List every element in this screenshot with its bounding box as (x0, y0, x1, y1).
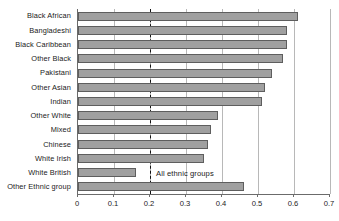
bar (78, 168, 136, 177)
bar (78, 54, 283, 63)
x-tick-label: 0.4 (216, 199, 227, 208)
x-tick-label: 0 (75, 199, 79, 208)
category-label: Other White (0, 109, 74, 123)
x-tick (329, 194, 330, 197)
bar (78, 154, 204, 163)
category-label: Mixed (0, 123, 74, 137)
bar-row (78, 37, 330, 51)
x-tick (113, 194, 114, 197)
bar (78, 83, 265, 92)
bar (78, 12, 298, 21)
category-label: Other Asian (0, 80, 74, 94)
reference-line-label: All ethnic groups (156, 169, 214, 178)
category-label: Pakistani (0, 66, 74, 80)
bar-row (78, 52, 330, 66)
plot-area: All ethnic groups (77, 9, 330, 195)
bar-row (78, 23, 330, 37)
bar-row (78, 9, 330, 23)
bar (78, 140, 208, 149)
bar-row (78, 109, 330, 123)
bar (78, 40, 287, 49)
x-tick (257, 194, 258, 197)
x-tick-label: 0.5 (252, 199, 263, 208)
bar (78, 111, 218, 120)
category-label: Chinese (0, 137, 74, 151)
bar (78, 26, 287, 35)
bar-row (78, 66, 330, 80)
x-tick (77, 194, 78, 197)
category-label: Black Caribbean (0, 37, 74, 51)
category-label: Black African (0, 9, 74, 23)
category-label: Other Black (0, 52, 74, 66)
bar (78, 69, 272, 78)
x-tick-label: 0.6 (288, 199, 299, 208)
bar-series (78, 9, 330, 194)
x-tick-label: 0.1 (108, 199, 119, 208)
bar-row (78, 94, 330, 108)
bar-row (78, 80, 330, 94)
bar-chart: Black AfricanBangladeshiBlack CaribbeanO… (0, 0, 339, 221)
category-label: White British (0, 166, 74, 180)
x-tick (185, 194, 186, 197)
category-axis: Black AfricanBangladeshiBlack CaribbeanO… (0, 9, 74, 194)
bar (78, 125, 211, 134)
x-tick (293, 194, 294, 197)
category-label: Indian (0, 94, 74, 108)
bar-row (78, 180, 330, 194)
x-tick (221, 194, 222, 197)
bar-row (78, 151, 330, 165)
category-label: Other Ethnic group (0, 180, 74, 194)
category-label: Bangladeshi (0, 23, 74, 37)
bar (78, 182, 244, 191)
x-tick-label: 0.2 (144, 199, 155, 208)
bar-row (78, 137, 330, 151)
x-tick-label: 0.7 (324, 199, 335, 208)
x-tick-label: 0.3 (180, 199, 191, 208)
bar-row (78, 123, 330, 137)
x-tick (149, 194, 150, 197)
bar (78, 97, 262, 106)
category-label: White Irish (0, 151, 74, 165)
x-axis: 00.10.20.30.40.50.60.7 (77, 194, 330, 221)
gridline (330, 9, 331, 194)
